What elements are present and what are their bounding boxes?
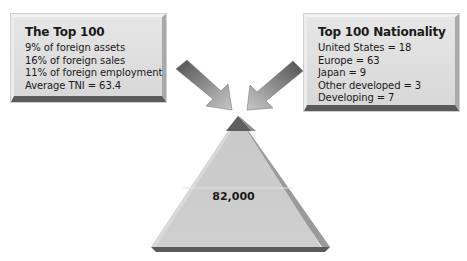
foreign-employment-stat: 11% of foreign employment (25, 67, 162, 80)
average-tni-stat: Average TNI = 63.4 (25, 80, 162, 93)
arrow-right-icon (247, 61, 303, 110)
japan-count: Japan = 9 (318, 67, 455, 80)
united-states-count: United States = 18 (318, 42, 455, 55)
pyramid (151, 116, 330, 252)
nationality-title: Top 100 Nationality (318, 25, 455, 40)
top-100-summary-box: The Top 100 9% of foreign assets 16% of … (11, 14, 166, 102)
other-developed-count: Other developed = 3 (318, 80, 455, 93)
top-100-title: The Top 100 (25, 25, 162, 40)
europe-count: Europe = 63 (318, 55, 455, 68)
pyramid-base-label: 82,000 (0, 190, 467, 203)
arrow-left-icon (176, 60, 232, 110)
top-100-nationality-box: Top 100 Nationality United States = 18 E… (304, 14, 459, 111)
foreign-sales-stat: 16% of foreign sales (25, 55, 162, 68)
developing-count: Developing = 7 (318, 92, 455, 105)
foreign-assets-stat: 9% of foreign assets (25, 42, 162, 55)
pyramid-tip-tier (226, 116, 252, 131)
